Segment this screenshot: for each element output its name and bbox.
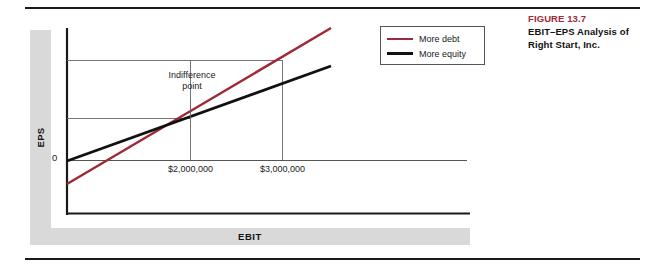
legend-item-more-debt: More debt	[387, 31, 484, 46]
figure-title-line2: Right Start, Inc.	[528, 38, 650, 51]
legend-swatch-more-equity-icon	[387, 52, 413, 55]
x-tick-label-2m: $2,000,000	[152, 164, 229, 174]
indifference-point-annotation: Indifference point	[152, 70, 232, 92]
figure-caption: FIGURE 13.7 EBIT–EPS Analysis of Right S…	[528, 12, 650, 51]
legend-label-more-equity: More equity	[419, 49, 466, 59]
y-axis-zero-label: 0	[52, 152, 57, 163]
indifference-annotation-line2: point	[152, 81, 232, 92]
indifference-annotation-line1: Indifference	[152, 70, 232, 81]
legend-item-more-equity: More equity	[387, 46, 484, 61]
figure-title-line1: EBIT–EPS Analysis of	[528, 25, 650, 38]
chart-legend: More debt More equity	[380, 26, 485, 65]
x-tick-label-3m: $3,000,000	[244, 164, 321, 174]
figure-container: EPS EBIT 0 Indifference point $2,000,000…	[0, 0, 657, 269]
figure-number-label: FIGURE 13.7	[528, 12, 650, 25]
legend-label-more-debt: More debt	[419, 34, 460, 44]
legend-swatch-more-debt-icon	[387, 38, 413, 40]
